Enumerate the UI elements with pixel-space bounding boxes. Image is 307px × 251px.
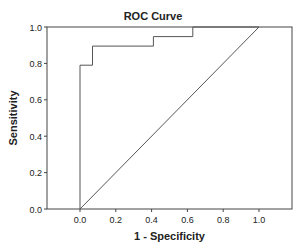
series-layer <box>80 27 259 209</box>
reference-diagonal-line <box>80 27 259 209</box>
x-axis: 0.00.20.40.60.81.0 <box>74 209 266 225</box>
y-axis: 0.00.20.40.60.81.0 <box>29 23 47 215</box>
x-tick-label: 0.0 <box>74 215 87 225</box>
y-tick-label: 0.6 <box>29 95 42 105</box>
x-axis-label: 1 - Specificity <box>134 230 206 242</box>
x-tick-label: 0.2 <box>110 215 123 225</box>
x-tick-label: 0.4 <box>145 215 158 225</box>
x-tick-label: 0.6 <box>181 215 194 225</box>
roc-chart: ROC Curve 0.00.20.40.60.81.0 0.00.20.40.… <box>0 0 307 251</box>
y-tick-label: 0.0 <box>29 205 42 215</box>
x-tick-label: 1.0 <box>253 215 266 225</box>
y-tick-label: 1.0 <box>29 23 42 33</box>
y-axis-label: Sensitivity <box>7 90 19 146</box>
x-tick-label: 0.8 <box>217 215 230 225</box>
y-tick-label: 0.4 <box>29 132 42 142</box>
y-tick-label: 0.2 <box>29 168 42 178</box>
roc-chart-svg: ROC Curve 0.00.20.40.60.81.0 0.00.20.40.… <box>0 0 307 251</box>
chart-title: ROC Curve <box>124 10 183 22</box>
y-tick-label: 0.8 <box>29 59 42 69</box>
